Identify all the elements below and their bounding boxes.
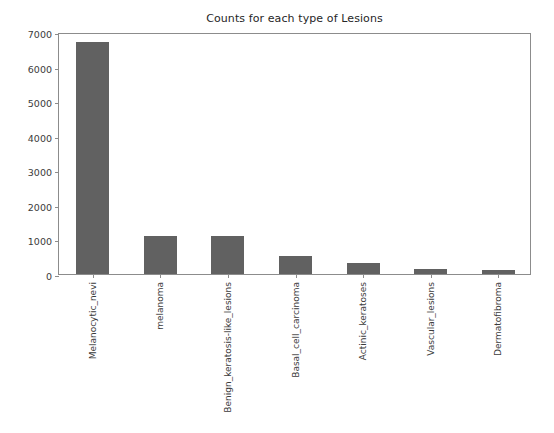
plot-inner-area: 01000200030004000500060007000Melanocytic… <box>59 34 530 274</box>
y-axis-tick <box>55 138 59 139</box>
y-axis-tick <box>55 103 59 104</box>
x-axis-tick <box>296 274 297 278</box>
x-axis-tick <box>498 274 499 278</box>
bar <box>347 263 380 274</box>
y-axis-tick <box>55 276 59 277</box>
y-axis-tick-label: 4000 <box>28 132 52 143</box>
y-axis-tick-label: 1000 <box>28 236 52 247</box>
y-axis-tick-label: 0 <box>46 271 52 282</box>
x-axis-tick <box>228 274 229 278</box>
y-axis-tick-label: 3000 <box>28 167 52 178</box>
x-axis-tick-label: Melanocytic_nevi <box>88 282 98 359</box>
x-axis-tick <box>93 274 94 278</box>
bar <box>211 236 244 274</box>
x-axis-tick-label: Dermatofibroma <box>493 282 503 356</box>
x-axis-tick-label: Basal_cell_carcinoma <box>291 282 301 378</box>
y-axis-tick-label: 5000 <box>28 98 52 109</box>
x-axis-tick-label: Benign_keratosis-like_lesions <box>223 282 233 413</box>
x-axis-tick-label: melanoma <box>155 282 165 330</box>
x-axis-tick <box>160 274 161 278</box>
bar <box>76 42 109 274</box>
x-axis-tick <box>431 274 432 278</box>
y-axis-tick-label: 7000 <box>28 29 52 40</box>
bar <box>144 236 177 274</box>
plot-axes: 01000200030004000500060007000Melanocytic… <box>58 33 531 275</box>
y-axis-tick <box>55 172 59 173</box>
y-axis-tick <box>55 34 59 35</box>
y-axis-tick <box>55 241 59 242</box>
bar <box>279 256 312 274</box>
y-axis-tick-label: 2000 <box>28 201 52 212</box>
y-axis-tick <box>55 207 59 208</box>
y-axis-tick <box>55 69 59 70</box>
y-axis-tick-label: 6000 <box>28 63 52 74</box>
chart-title: Counts for each type of Lesions <box>58 12 531 25</box>
x-axis-tick-label: Actinic_keratoses <box>358 282 368 360</box>
x-axis-tick <box>363 274 364 278</box>
x-axis-tick-label: Vascular_lesions <box>426 282 436 356</box>
chart-figure: Counts for each type of Lesions 01000200… <box>0 0 554 433</box>
